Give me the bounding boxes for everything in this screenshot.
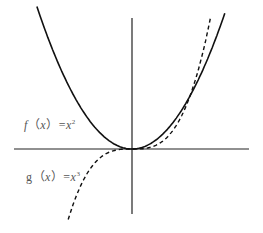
f-label: f（x）=x2 <box>24 115 76 133</box>
function-graph: f（x）=x2 g（x）=x3 <box>0 0 263 233</box>
cubic-curve <box>68 19 210 220</box>
g-label: g（x）=x3 <box>26 167 80 185</box>
